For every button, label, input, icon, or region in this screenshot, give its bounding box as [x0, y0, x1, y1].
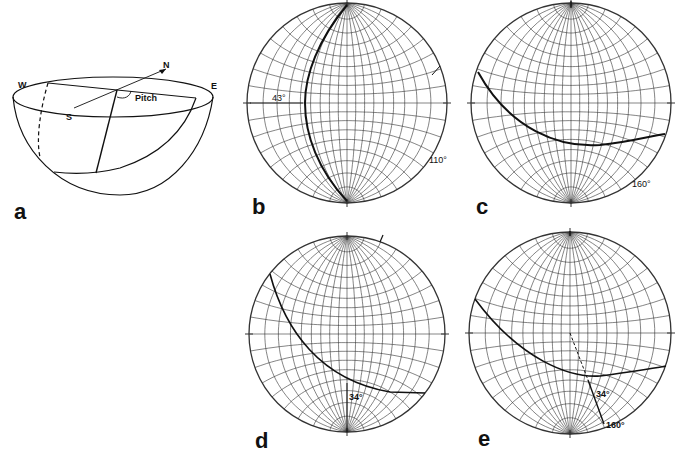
- strike-line: [48, 83, 196, 98]
- strike-label-c: 160°: [632, 180, 651, 189]
- wulff-net-b: [243, 0, 451, 207]
- strike-label-e: 160°: [606, 421, 625, 430]
- compass-north: N: [163, 61, 170, 70]
- great-circle-e: [475, 299, 666, 376]
- figure-canvas: [0, 0, 683, 462]
- hemisphere-diagram: [13, 69, 213, 195]
- stereonets: [243, 0, 675, 438]
- inclined-plane-curve: [54, 98, 196, 173]
- panel-label-b: b: [252, 196, 265, 218]
- compass-south: S: [66, 113, 72, 122]
- strike-label-b: 110°: [429, 156, 447, 165]
- pitch-label: Pitch: [135, 94, 157, 103]
- panel-e-overlay: [475, 231, 666, 424]
- compass-west: W: [18, 81, 27, 90]
- great-circle-c: [478, 72, 665, 145]
- panel-label-e: e: [478, 428, 490, 450]
- strike-arrow-b: [432, 66, 440, 75]
- pitch-line: [96, 90, 117, 173]
- pitch-angle-label-e: 34°: [596, 390, 610, 399]
- panel-label-c: c: [476, 196, 488, 218]
- wulff-net-c: [467, 0, 675, 207]
- dip-angle-label-b: 43°: [272, 94, 286, 103]
- compass-east: E: [211, 82, 217, 91]
- pitch-angle-label-d: 34°: [349, 393, 363, 402]
- great-circle-d: [270, 274, 425, 393]
- strike-arrow-d: [380, 235, 383, 242]
- dashed-great-circle: [38, 83, 48, 157]
- rake-line-e: [588, 380, 604, 424]
- panel-label-a: a: [14, 201, 26, 223]
- panel-label-d: d: [255, 430, 268, 452]
- pitch-angle-arc: [117, 91, 131, 98]
